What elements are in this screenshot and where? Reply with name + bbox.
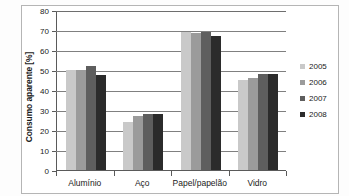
bar (268, 74, 278, 170)
bar-group (230, 11, 288, 170)
bar (96, 75, 106, 170)
bar (248, 78, 258, 170)
y-tick-label: 20 (40, 127, 49, 136)
y-axis-title: Consumo aparente [%] (24, 37, 34, 157)
legend-swatch-icon (300, 64, 305, 69)
y-tick-label: 80 (40, 7, 49, 16)
x-tick-mark (171, 171, 172, 176)
bar (86, 66, 96, 170)
legend-swatch-icon (300, 112, 305, 117)
bar-group (115, 11, 173, 170)
bar (181, 32, 191, 170)
y-tick-mark (52, 91, 56, 92)
bar (133, 116, 143, 170)
bar-group (57, 11, 115, 170)
legend-item-2005[interactable]: 2005 (300, 62, 327, 71)
bar (211, 36, 221, 170)
bar (153, 114, 163, 170)
y-tick-mark (52, 71, 56, 72)
legend-label: 2005 (309, 62, 327, 71)
x-axis-label: Alumínio (68, 178, 101, 188)
bar (143, 114, 153, 170)
x-axis-label: Aço (135, 178, 150, 188)
legend-swatch-icon (300, 96, 305, 101)
legend-label: 2007 (309, 94, 327, 103)
plot-area: 01020304050607080 AlumínioAçoPapel/papel… (56, 11, 286, 171)
x-axis-label: Vidro (247, 178, 267, 188)
bar (258, 74, 268, 170)
y-tick-mark (52, 111, 56, 112)
y-tick-label: 50 (40, 67, 49, 76)
chart-figure: Consumo aparente [%] 01020304050607080 A… (0, 0, 349, 196)
legend-item-2006[interactable]: 2006 (300, 78, 327, 87)
bar (123, 122, 133, 170)
y-tick-label: 60 (40, 47, 49, 56)
chart-legend: 2005200620072008 (300, 62, 327, 119)
legend-item-2008[interactable]: 2008 (300, 110, 327, 119)
bar (238, 80, 248, 170)
x-tick-mark (229, 171, 230, 176)
legend-item-2007[interactable]: 2007 (300, 94, 327, 103)
y-tick-label: 30 (40, 107, 49, 116)
bar-series-layer (57, 11, 286, 170)
y-tick-mark (52, 131, 56, 132)
y-tick-label: 40 (40, 87, 49, 96)
x-tick-mark (286, 171, 287, 176)
y-tick-mark (52, 11, 56, 12)
bar-group (172, 11, 230, 170)
y-tick-label: 70 (40, 27, 49, 36)
x-tick-mark (56, 171, 57, 176)
x-tick-mark (114, 171, 115, 176)
bar (66, 70, 76, 170)
legend-label: 2008 (309, 110, 327, 119)
legend-label: 2006 (309, 78, 327, 87)
bar (191, 33, 201, 170)
legend-swatch-icon (300, 80, 305, 85)
y-tick-mark (52, 31, 56, 32)
bar (201, 32, 211, 170)
y-tick-label: 0 (45, 167, 49, 176)
bar (76, 70, 86, 170)
y-tick-mark (52, 151, 56, 152)
y-tick-label: 10 (40, 147, 49, 156)
x-axis-label: Papel/papelão (173, 178, 227, 188)
y-tick-mark (52, 51, 56, 52)
